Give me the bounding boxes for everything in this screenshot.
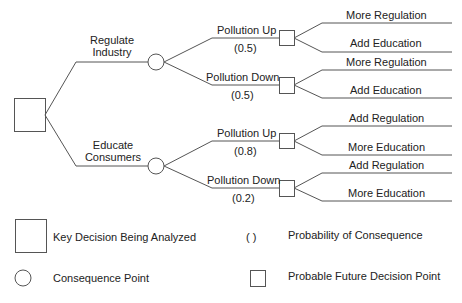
consequence-label: Pollution Up bbox=[217, 127, 276, 139]
future-decision-box-4 bbox=[280, 181, 295, 197]
legend-probability-symbol: ( ) bbox=[246, 231, 256, 243]
legend-key-decision-square bbox=[16, 220, 47, 253]
option-label: More Regulation bbox=[346, 9, 427, 21]
option-label: Add Education bbox=[350, 37, 422, 49]
consequence-label: Pollution Down bbox=[207, 174, 280, 186]
option-label: More Regulation bbox=[346, 56, 427, 68]
consequence-label: Pollution Up bbox=[217, 24, 276, 36]
option-label: More Education bbox=[348, 187, 425, 199]
root-decision-square bbox=[15, 99, 46, 132]
legend-consequence-point-label: Consequence Point bbox=[53, 272, 149, 284]
consequence-circle-regulate bbox=[148, 54, 164, 70]
option-label: Add Regulation bbox=[349, 159, 424, 171]
decision-label-educate-consumers: Educate Consumers bbox=[84, 139, 142, 163]
consequence-circle-educate bbox=[148, 158, 164, 174]
option-label: More Education bbox=[348, 141, 425, 153]
legend-future-decision-square bbox=[251, 271, 266, 287]
legend-key-decision-label: Key Decision Being Analyzed bbox=[53, 231, 196, 243]
probability-label: (0.5) bbox=[234, 42, 257, 54]
legend-consequence-circle bbox=[15, 270, 31, 286]
decision-label-regulate-industry: Regulate Industry bbox=[86, 34, 138, 58]
future-decision-box-3 bbox=[280, 134, 295, 149]
future-decision-box-2 bbox=[280, 78, 295, 94]
legend-future-decision-label: Probable Future Decision Point bbox=[288, 270, 440, 282]
decision-label-line1: Regulate bbox=[86, 34, 138, 46]
option-label: Add Regulation bbox=[349, 112, 424, 124]
probability-label: (0.5) bbox=[231, 89, 254, 101]
option-label: Add Education bbox=[350, 84, 422, 96]
decision-label-line2: Industry bbox=[86, 46, 138, 58]
probability-label: (0.8) bbox=[234, 145, 257, 157]
consequence-label: Pollution Down bbox=[206, 71, 279, 83]
decision-label-line2: Consumers bbox=[84, 151, 142, 163]
legend-probability-label: Probability of Consequence bbox=[288, 229, 423, 241]
probability-label: (0.2) bbox=[232, 192, 255, 204]
future-decision-box-1 bbox=[280, 31, 295, 46]
decision-label-line1: Educate bbox=[84, 139, 142, 151]
